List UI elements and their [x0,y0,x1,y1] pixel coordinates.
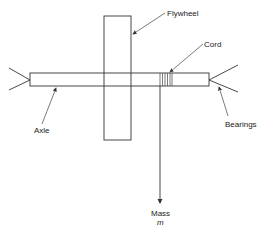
mass-symbol: m [157,218,164,227]
cord-label: Cord [204,40,221,49]
axle [30,73,209,86]
mass-label: Mass [151,209,170,218]
left-bearing [9,68,30,90]
cord-windings [160,73,172,86]
flywheel-label: Flywheel [167,9,199,18]
bearings-leader [219,87,228,116]
cord-leader [170,44,203,72]
axle-leader [42,88,56,124]
bearings-label: Bearings [225,120,257,129]
flywheel-diagram: Flywheel Cord Axle Bearings Mass m [0,0,261,230]
axle-label: Axle [34,126,50,135]
right-bearing [209,65,238,92]
flywheel-leader [133,13,165,34]
flywheel [104,16,131,140]
